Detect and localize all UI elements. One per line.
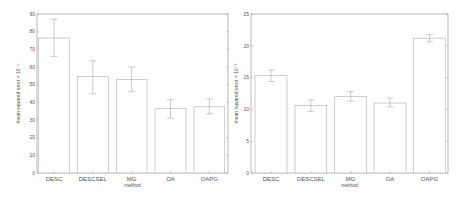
- y-tick-label: 10: [243, 106, 249, 112]
- y-tick-label: 70: [29, 46, 35, 52]
- bar: [414, 38, 446, 173]
- y-tick-label: 80: [29, 28, 35, 34]
- x-tick-label: DESC: [46, 176, 63, 182]
- y-tick-label: 60: [29, 64, 35, 70]
- y-tick-label: 0: [246, 170, 249, 176]
- x-tick-label: OA: [166, 176, 175, 182]
- y-axis-label: mean squared error × 10⁻⁶: [15, 63, 21, 123]
- x-tick-label: OAPG: [201, 176, 219, 182]
- bar: [295, 106, 327, 173]
- bar: [335, 97, 367, 173]
- y-tick-label: 40: [29, 99, 35, 105]
- bar: [39, 38, 70, 173]
- x-tick-label: OA: [386, 176, 395, 182]
- x-tick-label: DESCSEL: [79, 176, 108, 182]
- y-tick-label: 30: [29, 117, 35, 123]
- x-axis-label: method: [341, 182, 358, 188]
- y-tick-label: 20: [243, 43, 249, 49]
- bar: [116, 79, 147, 173]
- y-axis-label: mean squared error × 10⁻²: [233, 63, 239, 123]
- y-tick-label: 25: [243, 11, 249, 17]
- bar: [255, 76, 287, 173]
- y-tick-label: 50: [29, 81, 35, 87]
- bar: [374, 103, 406, 173]
- y-tick-label: 90: [29, 11, 35, 17]
- y-tick-label: 20: [29, 134, 35, 140]
- bar-charts: 0102030405060708090DESCDESCSELMGOAOAPGme…: [0, 0, 468, 199]
- x-axis-label: method: [124, 182, 141, 188]
- y-tick-label: 10: [29, 152, 35, 158]
- x-tick-label: OAPG: [421, 176, 439, 182]
- chart-left: 0102030405060708090DESCDESCSELMGOAOAPGme…: [15, 11, 228, 188]
- chart-right: 0510152025DESCDESCSELMGOAOAPGmethodmean …: [233, 11, 448, 188]
- bar: [194, 107, 225, 173]
- y-tick-label: 0: [32, 170, 35, 176]
- y-tick-label: 15: [243, 74, 249, 80]
- x-tick-label: DESCSEL: [297, 176, 326, 182]
- x-tick-label: DESC: [263, 176, 280, 182]
- y-tick-label: 5: [246, 138, 249, 144]
